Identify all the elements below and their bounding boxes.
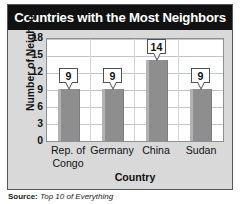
category-divider	[178, 39, 179, 141]
y-tick-label: 9	[25, 85, 43, 95]
x-tick-label-rep-of-congo: Rep. of Congo	[44, 144, 92, 169]
source-label: Source:	[8, 192, 38, 201]
value-callout-rep-of-congo: 9	[59, 68, 78, 83]
y-tick-label: 0	[25, 136, 43, 146]
bar-germany[interactable]	[102, 89, 124, 141]
bar-sudan[interactable]	[190, 89, 212, 141]
category-divider	[90, 39, 91, 141]
callout-pointer-fill-icon	[110, 82, 116, 88]
callout-pointer-fill-icon	[198, 82, 204, 88]
value-callout-china: 14	[147, 39, 166, 54]
plot-inner: 9 9 14 9	[47, 39, 223, 141]
chart-body: Number of Neighbors 18 15 12 9 6 3 0	[8, 30, 232, 189]
gridline	[47, 56, 223, 57]
x-tick-label-germany: Germany	[88, 144, 136, 157]
y-tick-label: 18	[25, 33, 43, 43]
chart-figure: Countries with the Most Neighbors Number…	[0, 0, 240, 204]
bar-china[interactable]	[146, 60, 168, 141]
y-axis-tick-labels: 18 15 12 9 6 3 0	[25, 38, 43, 142]
value-callout-germany: 9	[103, 68, 122, 83]
value-callout-text: 9	[110, 70, 116, 82]
page-title: Countries with the Most Neighbors	[14, 10, 226, 25]
x-tick-label-china: China	[133, 144, 179, 157]
x-tick-label-sudan: Sudan	[177, 144, 225, 157]
source-note: Source: Top 10 of Everything	[8, 192, 228, 201]
x-axis-tick-labels: Rep. of Congo Germany China Sudan	[46, 144, 224, 172]
callout-pointer-fill-icon	[154, 53, 160, 59]
value-callout-text: 9	[198, 70, 204, 82]
chart-panel: Countries with the Most Neighbors Number…	[7, 4, 233, 190]
y-tick-label: 12	[25, 67, 43, 77]
gridline	[47, 39, 223, 40]
y-tick-label: 3	[25, 119, 43, 129]
callout-pointer-fill-icon	[66, 82, 72, 88]
value-callout-text: 14	[151, 41, 163, 53]
category-divider	[134, 39, 135, 141]
chart-title-banner: Countries with the Most Neighbors	[8, 5, 232, 30]
bar-rep-of-congo[interactable]	[58, 89, 80, 141]
value-callout-sudan: 9	[191, 68, 210, 83]
y-tick-label: 15	[25, 50, 43, 60]
source-value: Top 10 of Everything	[40, 192, 113, 201]
y-tick-label: 6	[25, 102, 43, 112]
value-callout-text: 9	[66, 70, 72, 82]
x-axis-title: Country	[46, 171, 224, 183]
plot-area: 9 9 14 9	[46, 38, 224, 142]
